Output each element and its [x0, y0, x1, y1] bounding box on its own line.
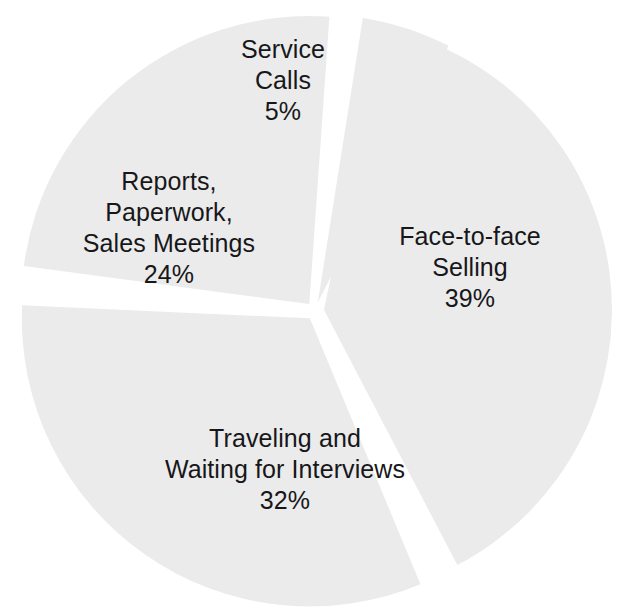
- pie-chart-canvas: Face-to-faceSelling39%Traveling andWaiti…: [0, 0, 621, 614]
- pie-chart: Face-to-faceSelling39%Traveling andWaiti…: [0, 0, 621, 614]
- pie-slices-group: [22, 16, 612, 606]
